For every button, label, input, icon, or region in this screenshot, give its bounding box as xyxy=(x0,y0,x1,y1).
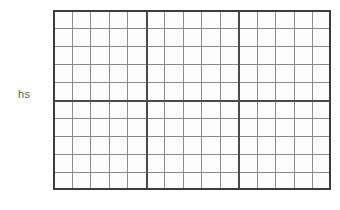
plot-area xyxy=(53,10,331,190)
chart-canvas: hs xyxy=(0,0,340,210)
y-axis-label: hs xyxy=(18,88,31,101)
grid-lines xyxy=(53,10,331,190)
major-gridlines xyxy=(54,11,330,189)
